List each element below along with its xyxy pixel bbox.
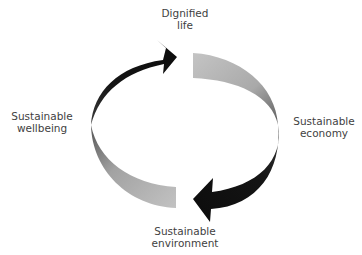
- arrow-body-icon: [91, 40, 177, 125]
- arrow-wellbeing-to-life: [91, 40, 177, 125]
- node-label-line: environment: [145, 237, 225, 249]
- node-label-line: Sustainable: [286, 115, 362, 127]
- node-sustainable-wellbeing: Sustainable wellbeing: [4, 110, 80, 134]
- node-label-line: life: [150, 19, 220, 31]
- node-label-line: economy: [286, 127, 362, 139]
- ribbon-environment-to-wellbeing: [91, 125, 176, 208]
- node-sustainable-environment: Sustainable environment: [145, 225, 225, 249]
- ribbon-shape: [193, 53, 278, 125]
- cycle-diagram: Dignified life Sustainable economy Susta…: [0, 0, 362, 255]
- arrow-body-icon: [193, 125, 279, 222]
- node-label-line: wellbeing: [4, 122, 80, 134]
- ribbon-shape: [91, 125, 176, 208]
- node-sustainable-economy: Sustainable economy: [286, 115, 362, 139]
- ribbon-life-to-economy: [193, 53, 278, 125]
- arrow-economy-to-environment: [193, 125, 279, 222]
- node-label-line: Sustainable: [145, 225, 225, 237]
- node-label-line: Sustainable: [4, 110, 80, 122]
- node-dignified-life: Dignified life: [150, 7, 220, 31]
- node-label-line: Dignified: [150, 7, 220, 19]
